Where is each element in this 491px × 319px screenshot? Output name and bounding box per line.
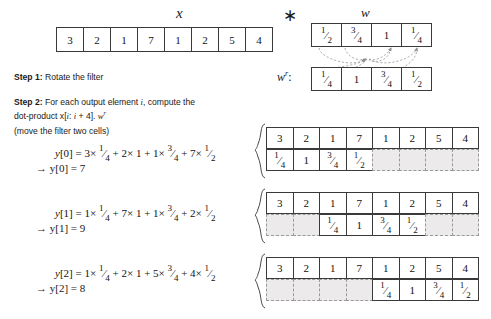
formula-y0: y[0] = 3× 1⁄4 + 2× 1 + 1× 3⁄4 + 7× 1⁄2 (55, 144, 215, 162)
panel-data-cell: 1 (319, 192, 347, 214)
step-2-line2-a: dot-product x[ (14, 111, 67, 121)
input-vector-row: 32171254 (56, 27, 273, 52)
panel-filter-cell: 1⁄4 (319, 214, 347, 236)
panel-data-cell: 4 (452, 192, 480, 214)
panel-empty-cell (293, 214, 321, 236)
input-cell: 1 (110, 27, 138, 52)
step-1-label: Step 1: (14, 72, 43, 82)
panel-data-cell: 3 (266, 257, 294, 279)
panel-empty-cell (346, 279, 374, 301)
panel-empty-cell (425, 149, 453, 171)
step-2-text: Step 2: For each output element i, compu… (14, 96, 246, 123)
panel-data-cell: 3 (266, 127, 294, 149)
panel-y1-filter-row: 1⁄413⁄41⁄2 (266, 214, 479, 236)
panel-filter-cell: 3⁄4 (319, 149, 347, 171)
panel-y0-filter-row: 1⁄413⁄41⁄2 (266, 149, 479, 171)
panel-empty-cell (293, 279, 321, 301)
panel-data-cell: 4 (452, 257, 480, 279)
panel-data-cell: 1 (372, 257, 400, 279)
reversed-filter-colon: : (288, 70, 291, 84)
panel-filter-cell: 1⁄4 (266, 149, 294, 171)
panel-data-cell: 4 (452, 127, 480, 149)
panel-data-cell: 2 (293, 192, 321, 214)
panel-y2-data-row: 32171254 (266, 257, 479, 279)
panel-y2-filter-row: 1⁄413⁄41⁄2 (266, 279, 479, 301)
move-filter-note: (move the filter two cells) (14, 125, 109, 137)
step-2-line2-wr-sup: r (104, 109, 107, 116)
reversed-filter-cell: 3⁄4 (371, 67, 402, 91)
panel-data-cell: 3 (266, 192, 294, 214)
panel-data-cell: 2 (293, 127, 321, 149)
step-1-text: Step 1: Rotate the filter (14, 71, 244, 83)
input-cell: 3 (56, 27, 84, 52)
panel-y1-data-row: 32171254 (266, 192, 479, 214)
panel-filter-cell: 3⁄4 (372, 214, 400, 236)
panel-filter-cell: 1 (346, 214, 374, 236)
panel-data-cell: 1 (372, 127, 400, 149)
input-vector-label: x (176, 5, 183, 22)
panel-empty-cell (425, 214, 453, 236)
panel-empty-cell (266, 214, 294, 236)
panel-empty-cell (452, 149, 480, 171)
input-cell: 2 (83, 27, 111, 52)
panel-brace (254, 188, 266, 244)
panel-filter-cell: 1⁄2 (452, 279, 480, 301)
reversed-filter-cell: 1 (341, 67, 372, 91)
result-y1: → y[1] = 9 (36, 222, 85, 234)
filter-cell: 1 (371, 23, 402, 47)
step-2-line2-c: + 4]. (76, 111, 98, 121)
input-cell: 4 (245, 27, 273, 52)
panel-data-cell: 7 (346, 257, 374, 279)
panel-filter-cell: 3⁄4 (425, 279, 453, 301)
convolution-operator-icon: ∗ (283, 7, 297, 24)
panel-data-cell: 1 (319, 127, 347, 149)
panel-filter-cell: 1⁄4 (372, 279, 400, 301)
reversed-filter-label: wr: (277, 69, 291, 85)
panel-y0-data-row: 32171254 (266, 127, 479, 149)
panel-data-cell: 5 (425, 127, 453, 149)
reversed-filter-row: 1⁄413⁄41⁄2 (311, 67, 432, 91)
formula-y1: y[1] = 1× 1⁄4 + 7× 1 + 1× 3⁄4 + 2× 1⁄2 (55, 204, 215, 222)
reversed-filter-label-base: w (277, 70, 285, 84)
step-2-body-1: For each output element (43, 97, 141, 107)
panel-data-cell: 5 (425, 192, 453, 214)
input-cell: 1 (164, 27, 192, 52)
result-y2: → y[2] = 8 (36, 282, 85, 294)
step-2-body-2: , compute the (143, 97, 195, 107)
input-cell: 5 (218, 27, 246, 52)
input-cell: 2 (191, 27, 219, 52)
panel-brace (254, 253, 266, 309)
panel-empty-cell (399, 149, 427, 171)
step-1-body: Rotate the filter (43, 72, 104, 82)
diagram-canvas: x 32171254 ∗ w 1⁄23⁄411⁄4 wr: 1⁄413⁄41⁄2… (0, 0, 491, 319)
panel-data-cell: 2 (293, 257, 321, 279)
panel-empty-cell (452, 214, 480, 236)
panel-empty-cell (319, 279, 347, 301)
panel-filter-cell: 1⁄2 (346, 149, 374, 171)
panel-data-cell: 5 (425, 257, 453, 279)
panel-data-cell: 2 (399, 192, 427, 214)
filter-cell: 1⁄2 (311, 23, 342, 47)
panel-filter-cell: 1 (399, 279, 427, 301)
panel-data-cell: 2 (399, 127, 427, 149)
panel-data-cell: 7 (346, 192, 374, 214)
panel-brace (254, 123, 266, 179)
formula-y2: y[2] = 1× 1⁄4 + 2× 1 + 5× 3⁄4 + 4× 1⁄2 (55, 264, 215, 282)
result-y0: → y[0] = 7 (36, 162, 85, 174)
panel-filter-cell: 1⁄2 (399, 214, 427, 236)
filter-cell: 1⁄4 (401, 23, 432, 47)
filter-row: 1⁄23⁄411⁄4 (311, 23, 432, 47)
panel-data-cell: 1 (319, 257, 347, 279)
input-cell: 7 (137, 27, 165, 52)
reversed-filter-cell: 1⁄4 (311, 67, 342, 91)
panel-data-cell: 2 (399, 257, 427, 279)
panel-filter-cell: 1 (293, 149, 321, 171)
step-2-label: Step 2: (14, 97, 43, 107)
panel-empty-cell (266, 279, 294, 301)
panel-data-cell: 1 (372, 192, 400, 214)
filter-cell: 3⁄4 (341, 23, 372, 47)
reversed-filter-cell: 1⁄2 (401, 67, 432, 91)
filter-label: w (361, 5, 370, 21)
panel-empty-cell (372, 149, 400, 171)
panel-data-cell: 7 (346, 127, 374, 149)
